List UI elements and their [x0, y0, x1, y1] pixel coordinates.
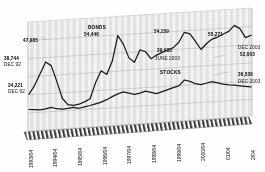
stocks-end-date: DEC 2003	[238, 79, 260, 84]
x-axis-tick-2-04: 2/04	[250, 150, 256, 160]
x-axis-tick-1998-04: 1998/04	[151, 145, 157, 163]
bonds-series-label: BONDS	[88, 25, 106, 30]
bonds-peak3-value: 54,159	[154, 29, 169, 34]
x-axis-tick-1999-04: 1999/04	[176, 144, 182, 162]
bonds-start-date: DEC 92	[4, 62, 21, 67]
bonds-peak1-value: 47,985	[23, 38, 38, 43]
chart-screenshot: BONDS STOCKS 38,744 DEC 92 34,221 DEC 92…	[0, 0, 265, 172]
stocks-series-label: STOCKS	[160, 70, 181, 75]
stocks-peak-value: 39,933	[157, 48, 172, 53]
bonds-end-value: 52,003	[240, 52, 255, 57]
x-axis-tick-1996-04: 1996/04	[102, 147, 108, 165]
x-axis-tick-1993-04: 1993/04	[28, 150, 34, 168]
stocks-start-date: DEC 92	[8, 89, 25, 94]
bonds-peak4-value: 55,271	[208, 32, 223, 37]
bonds-end-date: DEC 2003	[238, 45, 260, 50]
stocks-end-value: 36,536	[238, 72, 253, 77]
x-axis-tick-01-04: 01/04	[225, 148, 231, 161]
stocks-start-value: 34,221	[8, 83, 23, 88]
bonds-peak2-value: 54,446	[84, 32, 99, 37]
x-axis-tick-1995-04: 1995/04	[77, 148, 83, 166]
x-axis-tick-1994-04: 1994/04	[52, 149, 58, 167]
bonds-start-value: 38,744	[4, 56, 19, 61]
x-axis-tick-1997-04: 1997/04	[126, 146, 132, 164]
x-axis-tick-2000-04: 2000/04	[200, 143, 206, 161]
stocks-peak-date: JUNE 2003	[155, 56, 180, 61]
